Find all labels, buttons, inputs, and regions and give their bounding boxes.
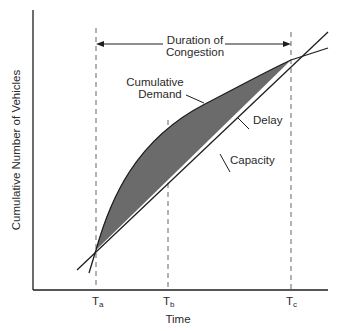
capacity-line — [77, 32, 328, 270]
x-axis-label: Time — [165, 313, 190, 325]
capacity-label: Capacity — [230, 154, 275, 166]
demand-label-line1: Cumulative — [126, 76, 184, 88]
delay-pointer — [238, 118, 249, 129]
demand-label-line2: Demand — [138, 88, 181, 100]
arrowhead-right-icon — [283, 41, 291, 47]
cumulative-demand-curve — [89, 48, 328, 273]
tick-tc: Tc — [286, 295, 297, 309]
tick-tb: Tb — [163, 295, 175, 309]
delay-label: Delay — [253, 114, 283, 126]
demand-pointer — [186, 95, 204, 103]
capacity-pointer — [220, 154, 230, 172]
duration-label-line1: Duration of — [167, 34, 224, 46]
y-axis-label: Cumulative Number of Vehicles — [10, 70, 22, 231]
duration-label-line2: Congestion — [166, 46, 224, 58]
arrowhead-left-icon — [96, 41, 104, 47]
queueing-diagram: Duration of Congestion Cumulative Demand… — [0, 0, 340, 331]
tick-ta: Ta — [92, 295, 104, 309]
